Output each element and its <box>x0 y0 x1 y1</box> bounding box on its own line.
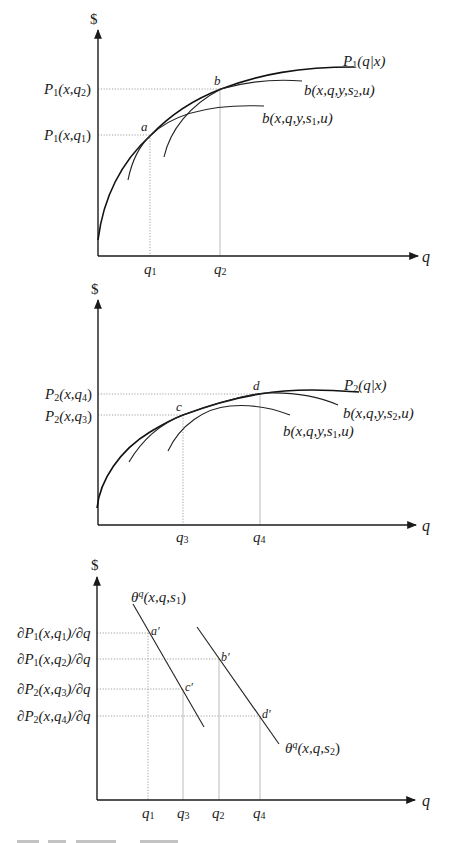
y-level-dp2q3: ∂P2(x,q3)/∂q <box>17 681 91 698</box>
bid-s1-label: b(x,q,y,s1,u) <box>283 423 354 440</box>
panel-top: $ q P1(q|x) b(x,q,y,s2,u) b(x,q,y,s1,u) … <box>43 11 430 277</box>
price-curve-label: P1(q|x) <box>342 53 385 70</box>
y-axis-label: $ <box>91 281 99 297</box>
theta-line-s2 <box>197 627 279 744</box>
y-level-p1q1: P1(x,q1) <box>43 127 91 144</box>
tick-q1: q1 <box>142 805 155 821</box>
tick-q3: q3 <box>177 805 190 821</box>
theta-line-s1 <box>133 604 204 727</box>
theta-s1-label: θq(x,q,s1) <box>131 588 186 606</box>
y-level-dp1q2: ∂P1(x,q2)/∂q <box>17 651 91 668</box>
bid-s2-label: b(x,q,y,s2,u) <box>304 82 375 99</box>
bid-curve-s1 <box>128 106 264 180</box>
y-axis-label: $ <box>91 557 99 573</box>
y-axis-label: $ <box>90 11 98 27</box>
y-level-dp2q4: ∂P2(x,q4)/∂q <box>17 708 91 725</box>
point-b: b <box>214 73 221 88</box>
x-axis-label: q <box>422 792 430 810</box>
x-axis-label: q <box>422 248 430 266</box>
tick-q4: q4 <box>253 805 266 821</box>
figure: $ q P1(q|x) b(x,q,y,s2,u) b(x,q,y,s1,u) … <box>0 0 450 843</box>
y-level-p1q2: P1(x,q2) <box>43 81 91 98</box>
point-c: c <box>176 399 182 414</box>
y-level-p2q3: P2(x,q3) <box>44 408 92 425</box>
theta-s2-label: θq(x,q,s2) <box>285 739 340 757</box>
bid-curve-s1 <box>168 406 290 451</box>
y-level-p2q4: P2(x,q4) <box>44 386 92 403</box>
tick-q1: q1 <box>144 261 157 277</box>
point-a-prime: a′ <box>151 624 160 638</box>
point-d-prime: d′ <box>262 707 271 721</box>
price-curve-p2 <box>97 390 359 508</box>
point-b-prime: b′ <box>221 650 230 664</box>
y-level-dp1q1: ∂P1(x,q1)/∂q <box>17 625 91 642</box>
bid-s1-label: b(x,q,y,s1,u) <box>262 110 333 127</box>
tick-q4: q4 <box>253 529 266 545</box>
tick-q2: q2 <box>214 261 227 277</box>
tick-q3: q3 <box>176 529 189 545</box>
point-a: a <box>141 119 148 134</box>
point-c-prime: c′ <box>185 680 193 694</box>
price-curve-label: P2(q|x) <box>343 377 386 394</box>
panel-bottom: $ q θq(x,q,s1) θq(x,q,s2) a′ b′ c′ d′ ∂P… <box>17 557 430 821</box>
tick-q2: q2 <box>212 805 225 821</box>
x-axis-label: q <box>422 517 430 535</box>
point-d: d <box>253 378 260 393</box>
panel-middle: $ q P2(q|x) b(x,q,y,s2,u) b(x,q,y,s1,u) … <box>44 281 430 545</box>
bid-s2-label: b(x,q,y,s2,u) <box>343 405 414 422</box>
